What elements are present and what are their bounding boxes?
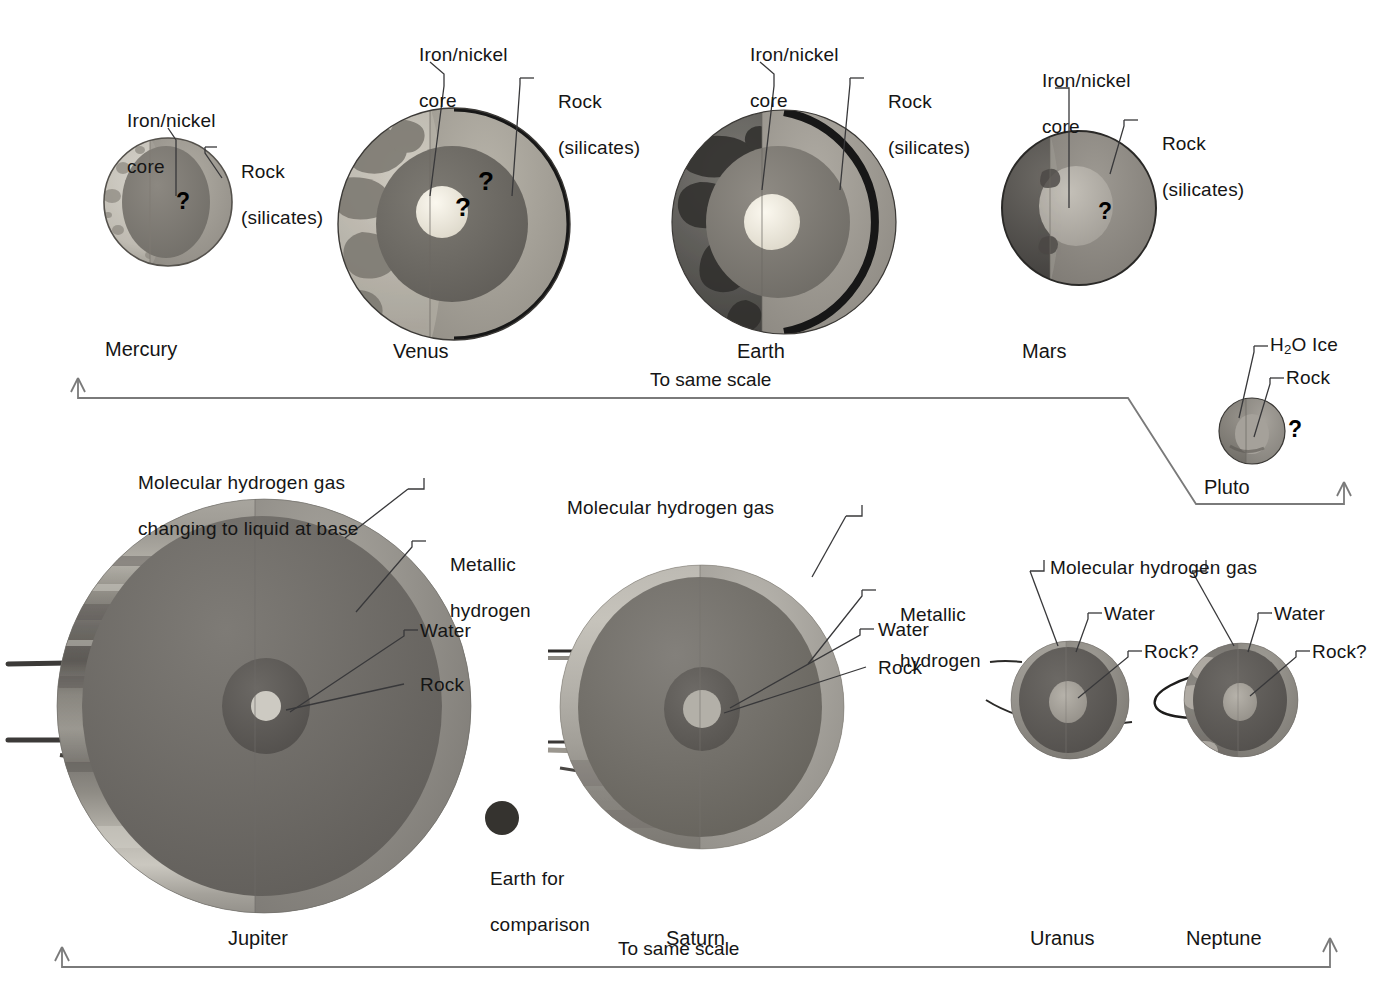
- label-text: Metallic: [450, 554, 516, 575]
- label-text: Iron/nickel: [127, 110, 216, 131]
- planet-name-pluto: Pluto: [1204, 476, 1250, 499]
- label-pluto-rock: Rock: [1286, 366, 1330, 389]
- scale-note-bottom: To same scale: [618, 938, 739, 960]
- planet-name-jupiter: Jupiter: [228, 927, 288, 950]
- question-mark: ?: [176, 190, 190, 213]
- label-mercury-core: Iron/nickel core: [105, 86, 216, 201]
- question-mark: ?: [1288, 418, 1302, 441]
- label-venus-core: Iron/nickel core: [397, 20, 508, 135]
- label-uranus-molecular-hydrogen: Molecular hydrogen gas: [1050, 556, 1257, 579]
- label-neptune-rock: Rock?: [1312, 640, 1367, 663]
- label-text: Iron/nickel: [750, 44, 839, 65]
- label-uranus-rock: Rock?: [1144, 640, 1199, 663]
- label-jupiter-rock: Rock: [420, 673, 464, 696]
- label-pluto-ice: H2O Ice: [1270, 333, 1338, 361]
- planet-name-mars: Mars: [1022, 340, 1066, 363]
- planet-saturn: [548, 560, 860, 860]
- label-text: Rock: [888, 91, 932, 112]
- label-text: (silicates): [1162, 179, 1244, 200]
- label-earth-rock: Rock (silicates): [866, 67, 970, 182]
- label-text: Rock: [1162, 133, 1206, 154]
- question-mark: ?: [1098, 200, 1112, 223]
- label-saturn-rock: Rock: [878, 656, 922, 679]
- label-text: Iron/nickel: [1042, 70, 1131, 91]
- label-text: Iron/nickel: [419, 44, 508, 65]
- label-mars-core: Iron/nickel core: [1020, 46, 1131, 161]
- label-text: core: [127, 156, 165, 177]
- label-text: H: [1270, 334, 1284, 355]
- label-earth-core: Iron/nickel core: [728, 20, 839, 135]
- label-neptune-water: Water: [1274, 602, 1325, 625]
- label-mercury-rock: Rock (silicates): [219, 137, 323, 252]
- label-text: core: [750, 90, 788, 111]
- label-text: Earth for: [490, 868, 565, 889]
- planet-name-earth: Earth: [737, 340, 785, 363]
- label-text: Rock: [241, 161, 285, 182]
- planet-name-neptune: Neptune: [1186, 927, 1262, 950]
- label-venus-rock: Rock (silicates): [536, 67, 640, 182]
- label-text: hydrogen: [450, 600, 531, 621]
- label-text: core: [419, 90, 457, 111]
- label-mars-rock: Rock (silicates): [1140, 109, 1244, 224]
- label-text: (silicates): [241, 207, 323, 228]
- planet-uranus: [986, 638, 1136, 764]
- label-text: Molecular hydrogen gas: [138, 472, 345, 493]
- label-text: comparison: [490, 914, 590, 935]
- planet-name-mercury: Mercury: [105, 338, 177, 361]
- planet-name-uranus: Uranus: [1030, 927, 1094, 950]
- label-text: changing to liquid at base: [138, 518, 359, 539]
- question-mark: ?: [478, 168, 494, 194]
- label-saturn-molecular-hydrogen: Molecular hydrogen gas: [567, 496, 774, 519]
- label-uranus-water: Water: [1104, 602, 1155, 625]
- label-jupiter-molecular-hydrogen: Molecular hydrogen gas changing to liqui…: [116, 448, 359, 563]
- earth-comparison-dot: [485, 801, 519, 835]
- earth-comparison-label: Earth for comparison: [468, 844, 590, 959]
- label-text: core: [1042, 116, 1080, 137]
- planetary-interiors-diagram: Iron/nickel core Rock (silicates) ? Merc…: [0, 0, 1381, 996]
- label-subscript: 2: [1284, 342, 1292, 357]
- label-text: O Ice: [1292, 334, 1338, 355]
- label-text: (silicates): [888, 137, 970, 158]
- scale-note-top: To same scale: [650, 369, 771, 391]
- label-jupiter-water: Water: [420, 619, 471, 642]
- label-saturn-water: Water: [878, 618, 929, 641]
- question-mark: ?: [455, 194, 471, 220]
- label-text: (silicates): [558, 137, 640, 158]
- planet-name-venus: Venus: [393, 340, 449, 363]
- planet-pluto: [1219, 398, 1290, 464]
- label-text: Rock: [558, 91, 602, 112]
